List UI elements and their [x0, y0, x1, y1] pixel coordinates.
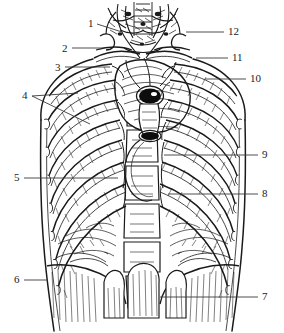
figure-label-3: 3	[55, 62, 61, 73]
figure-label-11: 11	[232, 52, 243, 63]
figure-label-6: 6	[14, 274, 20, 285]
figure-label-12: 12	[228, 26, 239, 37]
figure-label-8: 8	[262, 188, 268, 199]
figure-label-10: 10	[250, 73, 261, 84]
figure-label-9: 9	[262, 149, 268, 160]
figure-label-1: 1	[88, 18, 94, 29]
figure-label-5: 5	[14, 172, 20, 183]
figure-label-4: 4	[22, 90, 28, 101]
label-number-layer: 123456789101112	[0, 0, 284, 333]
figure-label-2: 2	[62, 43, 68, 54]
anatomy-figure: 123456789101112	[0, 0, 284, 333]
figure-label-7: 7	[262, 291, 268, 302]
